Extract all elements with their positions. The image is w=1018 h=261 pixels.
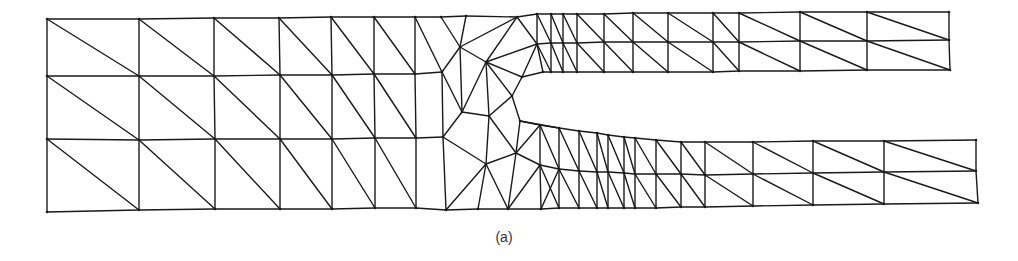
mesh-edge	[460, 17, 517, 47]
mesh-node	[330, 16, 333, 19]
mesh-node	[712, 71, 715, 74]
mesh-edge	[139, 209, 215, 210]
mesh-node	[46, 75, 49, 78]
mesh-edge	[332, 75, 375, 138]
figure-caption: (a)	[484, 229, 524, 245]
mesh-node	[975, 139, 978, 142]
mesh-edge	[215, 139, 280, 209]
mesh-edge	[537, 43, 551, 44]
mesh-node	[738, 12, 741, 15]
mesh-node	[440, 16, 443, 19]
mesh-edge	[604, 13, 633, 14]
mesh-node	[680, 141, 683, 144]
mesh-edge	[668, 42, 713, 72]
mesh-edge	[753, 205, 813, 206]
mesh-node	[948, 11, 951, 14]
mesh-edge	[705, 175, 753, 206]
mesh-node	[558, 207, 561, 210]
mesh-edge	[624, 137, 635, 138]
mesh-node	[373, 16, 376, 19]
mesh-edge	[813, 141, 884, 172]
mesh-edge	[800, 70, 867, 71]
mesh-node	[607, 207, 610, 210]
mesh-node	[562, 13, 565, 16]
mesh-edge	[441, 16, 466, 17]
mesh-node	[414, 73, 417, 76]
mesh-edge	[540, 165, 541, 209]
mesh-edge	[47, 210, 139, 212]
mesh-edge	[577, 14, 604, 42]
mesh-node	[634, 173, 637, 176]
mesh-node	[866, 11, 869, 14]
mesh-edge	[551, 43, 563, 72]
mesh-edge	[753, 141, 813, 142]
mesh-edge	[374, 74, 375, 138]
mesh-node	[975, 170, 978, 173]
mesh-node	[445, 209, 448, 212]
mesh-edge	[331, 17, 332, 75]
mesh-edge	[884, 171, 976, 172]
mesh-node	[519, 120, 522, 123]
mesh-edge	[517, 14, 537, 17]
mesh-node	[866, 69, 869, 72]
mesh-edge	[559, 128, 579, 171]
mesh-node	[812, 172, 815, 175]
mesh-edge	[713, 71, 739, 72]
mesh-edge	[214, 75, 280, 76]
mesh-edge	[540, 125, 559, 169]
mesh-node	[704, 141, 707, 144]
mesh-edge	[486, 153, 516, 164]
mesh-edge	[559, 169, 579, 171]
mesh-node	[596, 132, 599, 135]
mesh-edge	[517, 17, 537, 44]
mesh-edge	[579, 131, 597, 172]
mesh-node	[214, 208, 217, 211]
mesh-edge	[563, 14, 577, 43]
mesh-node	[883, 171, 886, 174]
mesh-edge	[577, 43, 604, 72]
mesh-edge	[633, 42, 668, 72]
mesh-edge	[486, 62, 489, 116]
mesh-node	[214, 138, 217, 141]
mesh-node	[667, 12, 670, 15]
mesh-edge	[443, 137, 446, 210]
mesh-edge	[462, 112, 489, 116]
mesh-edge	[537, 14, 551, 43]
mesh-edge	[415, 72, 442, 74]
mesh-node	[539, 124, 542, 127]
mesh-edge	[415, 17, 442, 72]
mesh-edge	[753, 173, 813, 174]
mesh-node	[655, 207, 658, 210]
mesh-node	[488, 115, 491, 118]
mesh-edge	[139, 140, 215, 209]
mesh-edge	[47, 19, 139, 76]
mesh-edge	[416, 137, 443, 138]
mesh-node	[738, 41, 741, 44]
mesh-node	[485, 61, 488, 64]
mesh-node	[562, 71, 565, 74]
mesh-edge	[214, 76, 280, 139]
mesh-node	[883, 203, 886, 206]
mesh-edge	[332, 138, 375, 139]
mesh-node	[603, 41, 606, 44]
mesh-edge	[442, 72, 443, 137]
mesh-edge	[279, 18, 280, 75]
mesh-edge	[512, 96, 520, 121]
mesh-edge	[443, 137, 486, 164]
mesh-node	[374, 137, 377, 140]
mesh-node	[812, 140, 815, 143]
mesh-edge	[739, 41, 800, 42]
mesh-edge	[540, 125, 559, 128]
mesh-edge	[139, 19, 214, 76]
mesh-node	[667, 41, 670, 44]
mesh-node	[213, 17, 216, 20]
mesh-edge	[559, 169, 579, 208]
mesh-edge	[713, 42, 739, 71]
mesh-node	[680, 173, 683, 176]
mesh-edge	[884, 203, 978, 204]
mesh-node	[948, 39, 951, 42]
mesh-node	[977, 202, 980, 205]
mesh-node	[46, 211, 49, 214]
mesh-edge	[681, 142, 705, 175]
mesh-node	[459, 46, 462, 49]
